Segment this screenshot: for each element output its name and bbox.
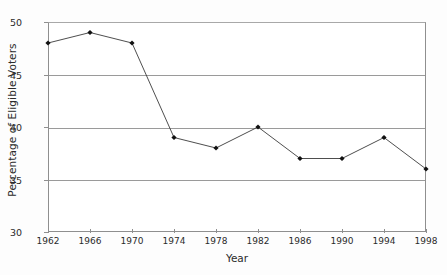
y-tick-label: 45	[0, 69, 22, 80]
y-tick-label: 30	[0, 227, 22, 238]
x-tick-label: 1974	[151, 236, 197, 246]
x-axis-title: Year	[48, 252, 426, 264]
data-point-marker	[129, 40, 134, 45]
data-point-marker	[339, 156, 344, 161]
y-tick-label: 50	[0, 17, 22, 28]
x-tick-label: 1994	[361, 236, 407, 246]
x-tick-label: 1966	[67, 236, 113, 246]
data-point-marker	[87, 30, 92, 35]
y-tick-mark	[44, 127, 48, 128]
x-tick-mark	[300, 229, 301, 233]
y-tick-mark	[44, 22, 48, 23]
x-tick-label: 1986	[277, 236, 323, 246]
x-tick-label: 1998	[403, 236, 447, 246]
x-tick-label: 1978	[193, 236, 239, 246]
x-tick-mark	[216, 229, 217, 233]
x-tick-mark	[48, 229, 49, 233]
x-tick-label: 1970	[109, 236, 155, 246]
x-axis-title-text: Year	[226, 252, 248, 264]
x-tick-label: 1962	[25, 236, 71, 246]
voter-turnout-line-chart: Percentage of Eligible Voters Year 30354…	[0, 0, 447, 275]
x-tick-mark	[426, 229, 427, 233]
x-tick-label: 1990	[319, 236, 365, 246]
data-point-marker	[171, 135, 176, 140]
data-series-layer	[48, 22, 426, 232]
y-tick-label: 40	[0, 122, 22, 133]
series-line	[48, 33, 426, 170]
y-tick-mark	[44, 180, 48, 181]
x-tick-mark	[342, 229, 343, 233]
x-tick-mark	[132, 229, 133, 233]
data-point-marker	[213, 145, 218, 150]
x-tick-mark	[258, 229, 259, 233]
x-tick-mark	[384, 229, 385, 233]
y-tick-mark	[44, 75, 48, 76]
y-tick-label: 35	[0, 174, 22, 185]
data-point-marker	[45, 40, 50, 45]
x-tick-mark	[90, 229, 91, 233]
x-tick-mark	[174, 229, 175, 233]
x-tick-label: 1982	[235, 236, 281, 246]
y-axis-title: Percentage of Eligible Voters	[0, 0, 24, 240]
